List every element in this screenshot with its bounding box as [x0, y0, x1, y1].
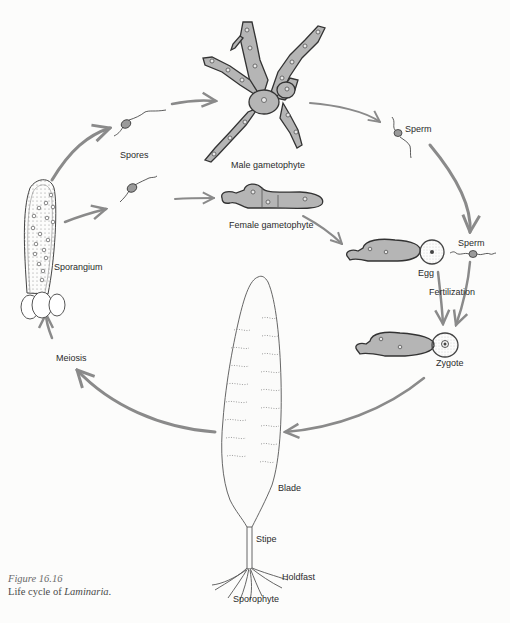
- arrow-meiosis-to-sporangium: [46, 314, 52, 338]
- spore-upper-drawing: [114, 110, 166, 136]
- arrow-sporangium-to-spore-lower: [65, 209, 106, 222]
- label-sporophyte: Sporophyte: [233, 594, 279, 604]
- caption-suffix: .: [109, 586, 112, 597]
- arrow-male-to-sperm: [310, 103, 380, 122]
- blade-outline: [222, 276, 282, 527]
- caption-taxon: Laminaria: [64, 586, 108, 597]
- sporangium-drawing: [21, 180, 65, 319]
- female-gametophyte-drawing: [222, 184, 323, 208]
- laminaria-life-cycle-diagram: Spores Male gametophyte Female gametophy…: [0, 0, 510, 623]
- stipe-outline: [247, 527, 252, 568]
- sporophyte-drawing: [212, 276, 288, 600]
- label-stipe: Stipe: [256, 534, 277, 544]
- label-sperm-top: Sperm: [405, 124, 432, 134]
- diagram-artwork: [0, 0, 510, 623]
- label-fertilization: Fertilization: [429, 287, 475, 297]
- label-holdfast: Holdfast: [282, 572, 315, 582]
- label-meiosis: Meiosis: [56, 353, 87, 363]
- zygote-drawing: [356, 332, 458, 357]
- arrow-zygote-to-sporophyte: [285, 378, 424, 432]
- label-female-gametophyte: Female gametophyte: [229, 220, 314, 230]
- sperm-right-drawing: [450, 251, 496, 258]
- arrow-spore-to-male: [172, 100, 216, 104]
- label-male-gametophyte: Male gametophyte: [231, 160, 305, 170]
- figure-caption-text: Life cycle of Laminaria.: [8, 585, 111, 598]
- spore-lower-drawing: [120, 176, 157, 202]
- egg-drawing: [347, 239, 444, 264]
- label-zygote: Zygote: [436, 358, 464, 368]
- arrow-spore-to-female: [175, 198, 214, 199]
- label-sporangium: Sporangium: [54, 262, 103, 272]
- male-gametophyte-drawing: [203, 22, 325, 162]
- caption-prefix: Life cycle of: [8, 586, 64, 597]
- figure-number: Figure 16.16: [8, 572, 111, 585]
- figure-caption: Figure 16.16 Life cycle of Laminaria.: [8, 572, 111, 598]
- label-egg: Egg: [418, 268, 434, 278]
- arrow-sperm-to-sperm: [430, 145, 470, 232]
- label-sperm-right: Sperm: [458, 238, 485, 248]
- arrow-sporangium-to-spore-upper: [52, 128, 110, 180]
- arrow-egg-to-zygote: [438, 272, 443, 324]
- label-blade: Blade: [278, 483, 301, 493]
- label-spores: Spores: [120, 150, 149, 160]
- arrow-sporophyte-to-meiosis: [77, 370, 215, 432]
